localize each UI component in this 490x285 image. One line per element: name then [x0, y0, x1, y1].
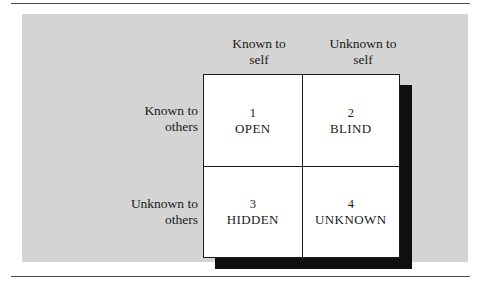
quadrant-hidden: 3 HIDDEN	[204, 166, 302, 257]
quadrant-unknown-label: UNKNOWN	[315, 212, 386, 227]
johari-grid: 1 OPEN 2 BLIND 3 HIDDEN 4 UNKNOWN	[203, 74, 400, 258]
column-header-known-to-self: Known to self	[207, 36, 311, 67]
quadrant-blind-number: 2	[348, 106, 354, 121]
quadrant-open: 1 OPEN	[204, 75, 302, 166]
quadrant-blind: 2 BLIND	[302, 75, 400, 166]
row-label-unknown-to-others-line2: others	[88, 212, 198, 228]
quadrant-open-label: OPEN	[235, 121, 271, 136]
column-header-known-to-self-line2: self	[207, 52, 311, 68]
column-header-unknown-to-self: Unknown to self	[311, 36, 415, 67]
quadrant-hidden-label: HIDDEN	[227, 212, 279, 227]
row-label-known-to-others-line1: Known to	[144, 103, 198, 118]
column-header-unknown-to-self-line2: self	[311, 52, 415, 68]
quadrant-blind-label: BLIND	[330, 121, 372, 136]
bottom-horizontal-rule	[11, 276, 470, 277]
quadrant-hidden-number: 3	[250, 197, 256, 212]
column-header-known-to-self-line1: Known to	[232, 36, 286, 51]
quadrant-unknown-number: 4	[348, 197, 354, 212]
quadrant-open-number: 1	[250, 106, 256, 121]
column-header-unknown-to-self-line1: Unknown to	[329, 36, 396, 51]
illustration-panel: Known to self Unknown to self Known to o…	[22, 14, 468, 262]
row-label-known-to-others-line2: others	[88, 119, 198, 135]
johari-window-figure: Known to self Unknown to self Known to o…	[0, 0, 490, 285]
quadrant-unknown: 4 UNKNOWN	[302, 166, 400, 257]
top-horizontal-rule	[11, 3, 470, 4]
row-label-unknown-to-others-line1: Unknown to	[131, 196, 198, 211]
row-label-known-to-others: Known to others	[88, 103, 198, 134]
row-label-unknown-to-others: Unknown to others	[88, 196, 198, 227]
